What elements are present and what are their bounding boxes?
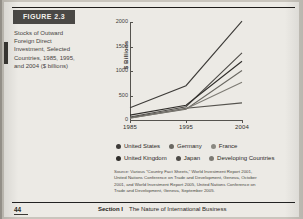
y-tick-label: 1000 [112, 68, 128, 73]
legend-label: Germany [177, 143, 202, 149]
y-tick-label: 1500 [112, 44, 128, 49]
line-series-group [130, 22, 242, 120]
line-series [130, 71, 242, 119]
x-tick-label: 2004 [235, 124, 249, 130]
legend-marker-icon [211, 144, 216, 149]
line-series [130, 21, 242, 108]
figure-top-rule [12, 7, 295, 8]
legend-marker-icon [116, 144, 121, 149]
y-tick-label: 500 [112, 93, 128, 98]
figure-number: 2.3 [54, 13, 65, 20]
legend-row: United KingdomJapanDeveloping Countries [116, 155, 266, 161]
x-tick-mark [130, 120, 131, 123]
legend-item[interactable]: Japan [176, 155, 200, 161]
page-spine-edge [0, 0, 2, 219]
legend-item[interactable]: France [211, 143, 238, 149]
legend-label: France [219, 143, 238, 149]
figure-caption: Stocks of Outward Foreign Direct Investm… [14, 29, 76, 70]
x-tick-label: 1995 [179, 124, 193, 130]
legend-label: Developing Countries [217, 155, 274, 161]
legend-label: United Kingdom [124, 155, 167, 161]
footer-section: Section I [98, 206, 123, 212]
chart-legend: United StatesGermanyFranceUnited Kingdom… [116, 143, 266, 167]
footer-rule [12, 202, 295, 203]
page-footer: 44 Section I The Nature of International… [12, 205, 297, 217]
legend-item[interactable]: United States [116, 143, 160, 149]
legend-row: United StatesGermanyFrance [116, 143, 266, 149]
legend-item[interactable]: United Kingdom [116, 155, 167, 161]
line-series [130, 82, 242, 118]
book-page: FIGURE 2.3 Stocks of Outward Foreign Dir… [0, 0, 303, 219]
page-number-underline [14, 214, 28, 215]
legend-item[interactable]: Developing Countries [209, 155, 274, 161]
legend-label: Japan [184, 155, 200, 161]
footer-section-title: The Nature of International Business [129, 206, 226, 212]
y-tick-label: 2000 [112, 19, 128, 24]
chart-area: $ Billions 0500100015002000 198519952004 [108, 18, 248, 136]
spine-mark [4, 42, 8, 64]
page-number: 44 [14, 206, 21, 213]
page-sheet: FIGURE 2.3 Stocks of Outward Foreign Dir… [4, 2, 299, 217]
legend-marker-icon [209, 156, 214, 161]
figure-label-text: FIGURE [23, 13, 52, 20]
y-tick-label: 0 [112, 117, 128, 122]
source-note: Source: Various “Country Fact Sheets,” W… [114, 169, 266, 195]
legend-label: United States [124, 143, 160, 149]
figure-label-chip: FIGURE 2.3 [13, 10, 75, 24]
x-tick-mark [242, 120, 243, 123]
legend-marker-icon [116, 156, 121, 161]
x-tick-mark [186, 120, 187, 123]
legend-marker-icon [169, 144, 174, 149]
x-tick-label: 1985 [123, 124, 137, 130]
legend-marker-icon [176, 156, 181, 161]
legend-item[interactable]: Germany [169, 143, 202, 149]
